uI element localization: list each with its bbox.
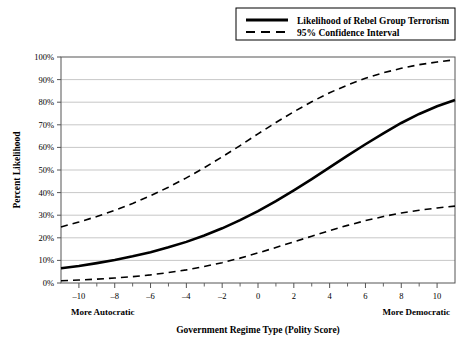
x-tick-label: –6 — [145, 291, 155, 301]
chart-svg: 0%10%20%30%40%50%60%70%80%90%100% –10–8–… — [0, 0, 466, 341]
y-tick-label: 0% — [43, 278, 54, 288]
y-axis-ticks — [57, 57, 61, 283]
legend-label-0: Likelihood of Rebel Group Terrorism — [297, 16, 449, 26]
y-tick-label: 20% — [38, 233, 54, 243]
x-tick-label: 10 — [433, 291, 442, 301]
x-axis-left-annotation: More Autocratic — [71, 307, 135, 317]
x-tick-label: –8 — [109, 291, 119, 301]
series-line-1 — [61, 60, 455, 227]
x-tick-label: 6 — [363, 291, 367, 301]
x-tick-label: 0 — [256, 291, 260, 301]
x-tick-label: 8 — [399, 291, 403, 301]
y-tick-label: 40% — [38, 188, 54, 198]
x-tick-label: –2 — [217, 291, 227, 301]
x-tick-label: 2 — [292, 291, 296, 301]
gridlines — [61, 80, 455, 261]
x-axis-title: Government Regime Type (Polity Score) — [176, 325, 340, 336]
legend: Likelihood of Rebel Group Terrorism 95% … — [236, 8, 455, 40]
y-axis-title: Percent Likelihood — [12, 131, 22, 209]
x-axis-tick-labels: –10–8–6–4–20246810 — [72, 291, 442, 301]
legend-label-1: 95% Confidence Interval — [297, 28, 400, 38]
x-tick-label: –4 — [181, 291, 191, 301]
y-axis-tick-labels: 0%10%20%30%40%50%60%70%80%90%100% — [34, 52, 54, 288]
y-tick-label: 100% — [34, 52, 54, 62]
y-tick-label: 80% — [38, 97, 54, 107]
chart-figure: 0%10%20%30%40%50%60%70%80%90%100% –10–8–… — [0, 0, 466, 341]
y-tick-label: 10% — [38, 255, 54, 265]
x-tick-label: 4 — [328, 291, 333, 301]
x-axis-ticks — [79, 283, 437, 288]
y-tick-label: 90% — [38, 75, 54, 85]
y-tick-label: 30% — [38, 210, 54, 220]
x-tick-label: –10 — [72, 291, 86, 301]
x-axis-right-annotation: More Democratic — [382, 307, 450, 317]
y-tick-label: 60% — [38, 142, 54, 152]
y-tick-label: 70% — [38, 120, 54, 130]
series-line-2 — [61, 206, 455, 281]
y-tick-label: 50% — [38, 165, 54, 175]
